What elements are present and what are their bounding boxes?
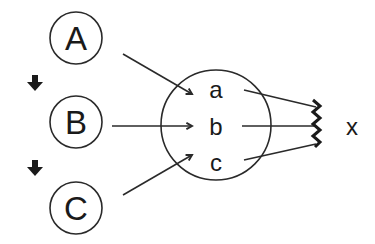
connection-c-to-c xyxy=(123,155,192,195)
source-node-b: B xyxy=(50,96,102,148)
hub-item-b: b xyxy=(209,113,222,140)
source-label-a: A xyxy=(65,20,87,57)
hub-item-c: c xyxy=(210,149,222,176)
connection-a-to-x xyxy=(244,90,316,107)
target-label-x: x xyxy=(346,113,358,140)
source-label-b: B xyxy=(65,104,87,141)
hub-item-a: a xyxy=(209,76,223,103)
source-node-a: A xyxy=(50,12,102,64)
connection-a-to-a xyxy=(123,54,192,94)
source-label-c: C xyxy=(64,190,88,227)
source-node-c: C xyxy=(50,182,102,234)
diagram-canvas: A B C a b c x xyxy=(0,0,375,244)
down-arrow-icon xyxy=(27,75,43,91)
connection-c-to-x xyxy=(244,144,316,160)
down-arrow-icon xyxy=(27,160,43,176)
